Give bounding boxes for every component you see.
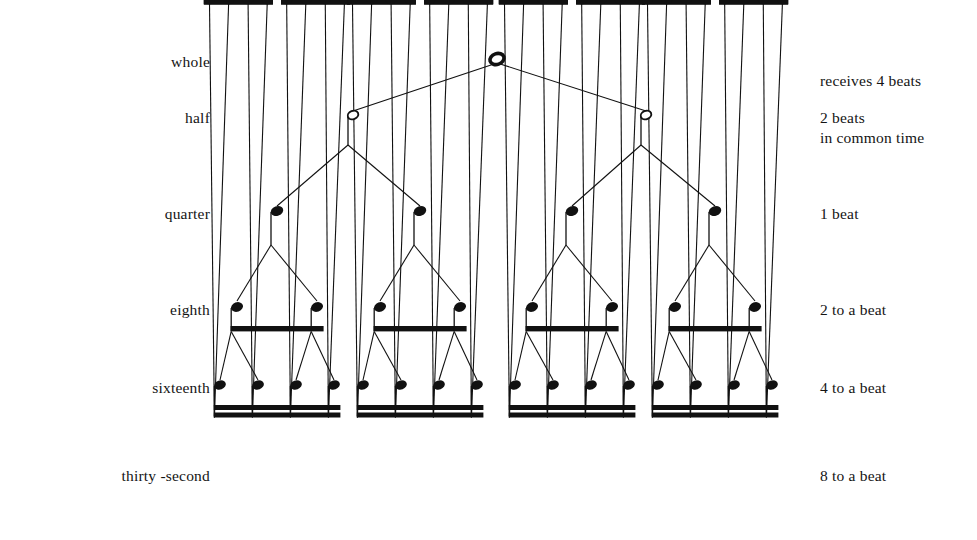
row-value-eighth: 2 to a beat xyxy=(820,300,886,319)
branch-sixteenth-to-32-2-2-0 xyxy=(582,0,586,418)
branch-half-to-quarter-0-1 xyxy=(348,145,420,206)
branch-quarter-to-eighth-2-0 xyxy=(532,245,566,301)
branch-sixteenth-to-32-1-2-0 xyxy=(430,0,434,418)
branch-sixteenth-to-32-2-1-1 xyxy=(547,0,562,418)
sixteenth-beam1-0 xyxy=(214,405,341,410)
row-label-thirty-second: thirty -second xyxy=(0,466,210,485)
branch-sixteenth-to-32-1-1-1 xyxy=(395,0,410,418)
branch-sixteenth-to-32-1-3-1 xyxy=(471,0,487,418)
branch-sixteenth-to-32-0-0-0 xyxy=(209,0,214,418)
branch-eighth-to-sixteenth-0-0 xyxy=(220,331,231,380)
branch-eighth-to-sixteenth-3-0 xyxy=(658,331,669,380)
sixteenth-beam2-2 xyxy=(509,413,636,418)
row-label-whole: whole xyxy=(0,52,210,71)
branch-eighth-to-sixteenth-2-0 xyxy=(515,331,526,380)
sixteenth-beam1-1 xyxy=(357,405,484,410)
branch-sixteenth-to-32-2-1-0 xyxy=(543,0,547,418)
branch-half-to-quarter-1-1 xyxy=(641,145,715,206)
row-value-whole-line2: in common time xyxy=(820,128,924,147)
branch-sixteenth-to-32-2-3-1 xyxy=(623,0,639,418)
sixteenth-beam1-3 xyxy=(652,405,779,410)
eighth-beam-0 xyxy=(231,326,324,331)
branch-sixteenth-to-32-1-1-0 xyxy=(391,0,395,418)
row-value-quarter: 1 beat xyxy=(820,204,859,223)
branch-quarter-to-eighth-1-1 xyxy=(414,245,460,301)
row-value-thirty-second: 8 to a beat xyxy=(820,466,886,485)
sixteenth-beam2-3 xyxy=(652,413,779,418)
branch-sixteenth-to-32-1-0-0 xyxy=(352,0,357,418)
branch-quarter-to-eighth-2-1 xyxy=(566,245,612,301)
branch-sixteenth-to-32-0-2-0 xyxy=(287,0,291,418)
branch-sixteenth-to-32-3-0-0 xyxy=(647,0,652,418)
branch-whole-to-half-1 xyxy=(497,63,646,111)
branch-eighth-to-sixteenth-3-2 xyxy=(734,331,749,380)
branch-eighth-to-sixteenth-0-2 xyxy=(296,331,311,380)
whole-note-head xyxy=(488,52,505,67)
eighth-beam-1 xyxy=(374,326,467,331)
branch-sixteenth-to-32-3-0-1 xyxy=(652,0,666,418)
sixteenth-beam1-2 xyxy=(509,405,636,410)
branch-eighth-to-sixteenth-2-2 xyxy=(591,331,606,380)
branch-sixteenth-to-32-2-0-1 xyxy=(509,0,523,418)
branch-sixteenth-to-32-2-3-0 xyxy=(620,0,623,418)
branch-sixteenth-to-32-1-0-1 xyxy=(357,0,371,418)
branch-quarter-to-eighth-3-0 xyxy=(675,245,709,301)
branch-quarter-to-eighth-3-1 xyxy=(709,245,755,301)
row-value-whole-line1: receives 4 beats xyxy=(820,71,924,90)
row-value-sixteenth: 4 to a beat xyxy=(820,378,886,397)
row-label-eighth: eighth xyxy=(0,300,210,319)
branch-sixteenth-to-32-0-1-0 xyxy=(248,0,252,418)
branch-quarter-to-eighth-1-0 xyxy=(380,245,414,301)
branch-whole-to-half-0 xyxy=(353,63,497,111)
branch-eighth-to-sixteenth-1-0 xyxy=(363,331,374,380)
branch-quarter-to-eighth-0-1 xyxy=(271,245,317,301)
row-label-half: half xyxy=(0,108,210,127)
row-label-sixteenth: sixteenth xyxy=(0,378,210,397)
branch-sixteenth-to-32-0-3-1 xyxy=(328,0,344,418)
branch-sixteenth-to-32-1-3-0 xyxy=(468,0,471,418)
branch-sixteenth-to-32-0-3-0 xyxy=(325,0,328,418)
sixteenth-beam2-1 xyxy=(357,413,484,418)
branch-quarter-to-eighth-0-0 xyxy=(237,245,271,301)
branch-sixteenth-to-32-0-1-1 xyxy=(252,0,267,418)
eighth-beam-3 xyxy=(669,326,762,331)
note-heads xyxy=(204,0,788,391)
branch-sixteenth-to-32-3-1-1 xyxy=(690,0,705,418)
row-label-quarter: quarter xyxy=(0,204,210,223)
branch-sixteenth-to-32-2-0-0 xyxy=(504,0,509,418)
branch-sixteenth-to-32-3-2-0 xyxy=(725,0,729,418)
branch-sixteenth-to-32-0-0-1 xyxy=(214,0,228,418)
note-value-tree-figure: whole half quarter eighth sixteenth thir… xyxy=(0,0,977,540)
sixteenth-beam2-0 xyxy=(214,413,341,418)
row-value-half: 2 beats xyxy=(820,108,865,127)
branch-sixteenth-to-32-3-3-1 xyxy=(766,0,782,418)
branch-sixteenth-to-32-3-3-0 xyxy=(763,0,766,418)
branch-half-to-quarter-1-0 xyxy=(572,145,641,206)
eighth-beam-2 xyxy=(526,326,619,331)
branch-sixteenth-to-32-3-1-0 xyxy=(686,0,690,418)
branch-eighth-to-sixteenth-1-2 xyxy=(439,331,454,380)
